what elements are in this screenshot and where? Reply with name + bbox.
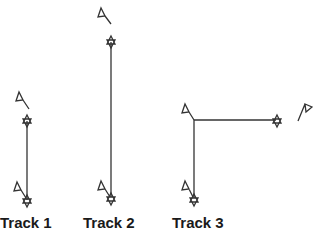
star-icon	[273, 115, 281, 127]
track-1	[14, 92, 31, 207]
track-3-label: Track 3	[172, 214, 224, 231]
start-flag-icon	[16, 92, 29, 109]
flag-icon	[14, 182, 26, 198]
track-3	[182, 104, 312, 206]
track-diagram	[0, 0, 313, 235]
flag-icon	[182, 104, 194, 120]
flag-icon	[182, 181, 193, 197]
track-1-label: Track 1	[0, 214, 52, 231]
track-2-label: Track 2	[83, 214, 135, 231]
track-2	[98, 8, 115, 205]
start-flag-icon	[298, 104, 312, 121]
start-flag-icon	[98, 8, 111, 24]
flag-icon	[98, 181, 110, 197]
